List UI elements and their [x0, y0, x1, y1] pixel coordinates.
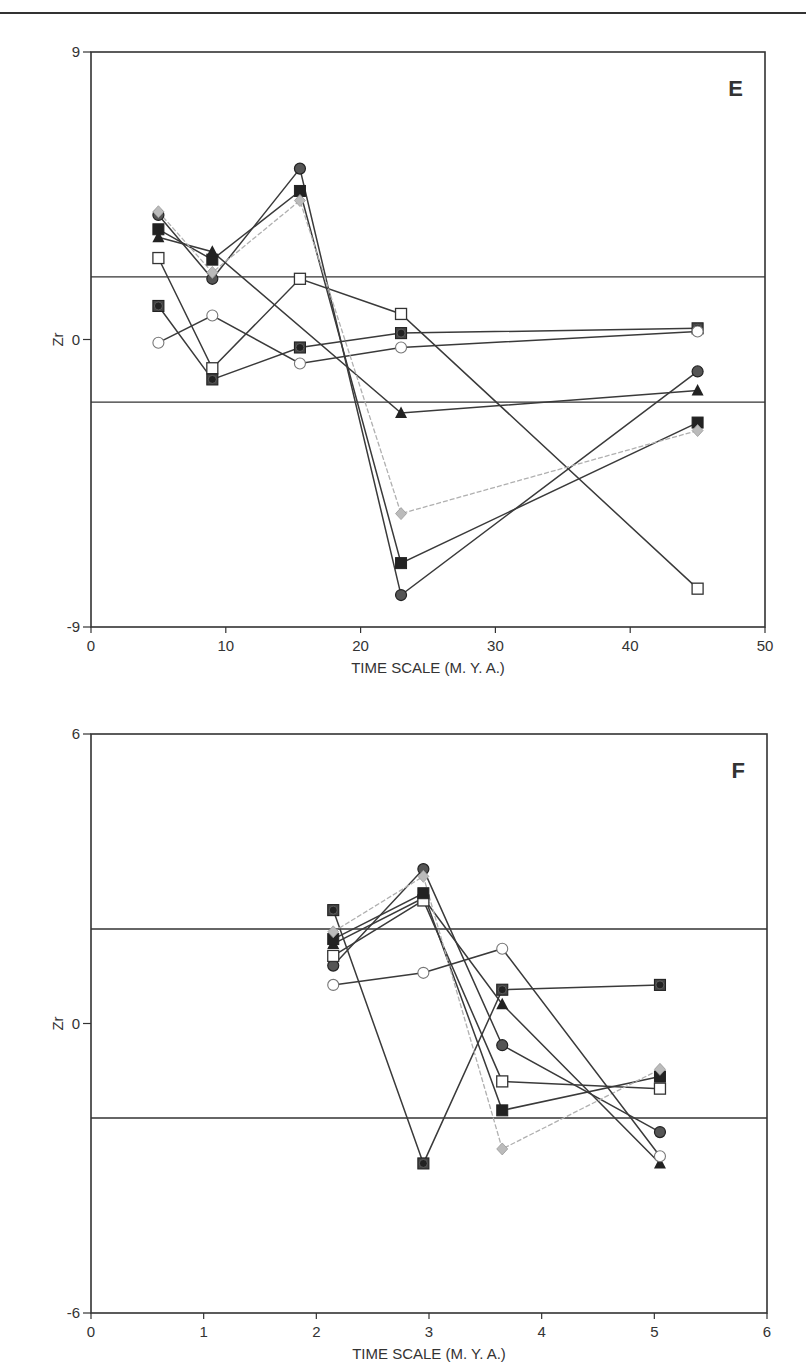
marker-open-circle [497, 943, 508, 954]
series-line-filled-triangle [333, 898, 660, 1163]
marker-filled-square [418, 888, 429, 899]
marker-open-square [396, 308, 407, 319]
series-line-square-with-circle [158, 306, 697, 379]
x-tick-label: 30 [487, 637, 504, 654]
series-line-open-circle [333, 949, 660, 1156]
y-tick-label: -9 [67, 618, 80, 635]
marker-square-with-circle [207, 374, 218, 385]
y-tick-label: 0 [72, 331, 80, 348]
x-tick-label: 20 [352, 637, 369, 654]
series-line-filled-square [158, 191, 697, 563]
x-axis-label: TIME SCALE (M. Y. A.) [351, 659, 505, 676]
marker-square-with-circle [396, 328, 407, 339]
marker-square-with-circle [153, 300, 164, 311]
marker-open-square [153, 253, 164, 264]
panel-label: E [728, 76, 743, 101]
x-tick-label: 4 [537, 1323, 545, 1340]
marker-open-circle [654, 1151, 665, 1162]
series-line-open-square [158, 258, 697, 589]
marker-square-with-circle [418, 1158, 429, 1169]
marker-square-with-circle [654, 979, 665, 990]
marker-open-square [654, 1083, 665, 1094]
marker-filled-circle [692, 366, 703, 377]
x-tick-label: 2 [312, 1323, 320, 1340]
marker-square-with-circle [497, 984, 508, 995]
marker-open-circle [692, 326, 703, 337]
x-tick-label: 50 [757, 637, 774, 654]
marker-filled-circle [497, 1040, 508, 1051]
x-tick-label: 6 [763, 1323, 771, 1340]
y-tick-label: 0 [72, 1015, 80, 1032]
x-tick-label: 3 [425, 1323, 433, 1340]
marker-open-circle [396, 342, 407, 353]
y-tick-label: 6 [72, 725, 80, 742]
marker-open-square [328, 950, 339, 961]
x-axis-label: TIME SCALE (M. Y. A.) [352, 1345, 506, 1362]
marker-square-with-circle [328, 905, 339, 916]
plot-frame [91, 734, 767, 1313]
marker-open-square [497, 1076, 508, 1087]
marker-open-square [692, 583, 703, 594]
chart-e-svg: 0102030405090-9TIME SCALE (M. Y. A.)ZrE [0, 0, 806, 690]
marker-filled-triangle [692, 384, 704, 396]
x-tick-label: 0 [87, 1323, 95, 1340]
marker-gray-diamond [396, 508, 407, 520]
series-line-filled-circle [158, 169, 697, 595]
chart-panel-e: 0102030405090-9TIME SCALE (M. Y. A.)ZrE [0, 0, 806, 690]
marker-open-circle [153, 337, 164, 348]
x-tick-label: 40 [622, 637, 639, 654]
marker-filled-square [497, 1105, 508, 1116]
series-line-filled-triangle [158, 237, 697, 413]
marker-gray-diamond [497, 1143, 508, 1155]
y-axis-label: Zr [49, 332, 66, 346]
marker-open-circle [207, 310, 218, 321]
marker-open-square [294, 273, 305, 284]
marker-filled-square [396, 558, 407, 569]
y-tick-label: -6 [67, 1304, 80, 1321]
chart-panel-f: 012345660-6TIME SCALE (M. Y. A.)ZrF [0, 690, 806, 1372]
chart-f-svg: 012345660-6TIME SCALE (M. Y. A.)ZrF [0, 690, 806, 1372]
panel-label: F [732, 758, 745, 783]
series-line-gray-diamond [158, 201, 697, 514]
x-tick-label: 1 [199, 1323, 207, 1340]
marker-square-with-circle [294, 342, 305, 353]
marker-filled-circle [294, 163, 305, 174]
x-tick-label: 10 [217, 637, 234, 654]
y-axis-label: Zr [49, 1016, 66, 1030]
marker-open-circle [328, 979, 339, 990]
x-tick-label: 0 [87, 637, 95, 654]
marker-open-square [207, 363, 218, 374]
y-tick-label: 9 [72, 43, 80, 60]
x-tick-label: 5 [650, 1323, 658, 1340]
marker-filled-circle [396, 590, 407, 601]
marker-filled-circle [654, 1127, 665, 1138]
marker-open-circle [294, 358, 305, 369]
marker-open-circle [418, 967, 429, 978]
